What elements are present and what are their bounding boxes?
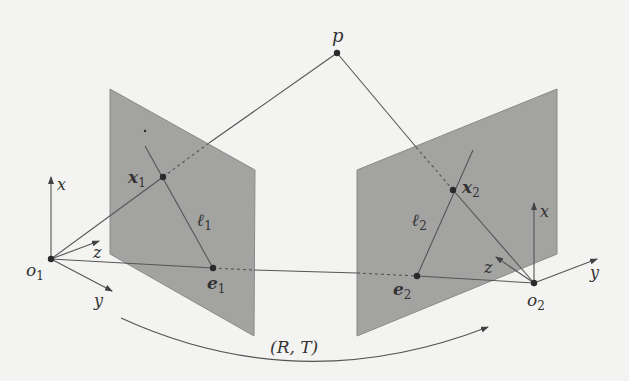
label-cam2-x: x [540,202,549,221]
label-cam2-z: z [483,258,493,277]
label-o2: o2 [527,290,545,313]
point-o1 [48,256,54,262]
point-e1 [210,265,216,271]
label-transform: (R, T) [270,337,318,357]
point-x2 [450,187,456,193]
label-cam1-z: z [92,243,102,262]
epipolar-geometry-diagram: p x1 x2 ℓ1 ℓ2 e1 e2 o1 o2 x z y x z y (R… [0,0,629,381]
label-cam2-y: y [589,263,600,282]
label-o1: o1 [26,260,44,283]
camera1-axes [51,177,112,291]
point-o2 [531,280,537,286]
label-cam1-x: x [57,175,66,194]
point-e2 [414,273,420,279]
point-x1 [160,174,166,180]
small-dot [144,130,146,132]
point-p [334,50,340,56]
label-cam1-y: y [93,291,104,310]
label-p: p [332,25,344,46]
